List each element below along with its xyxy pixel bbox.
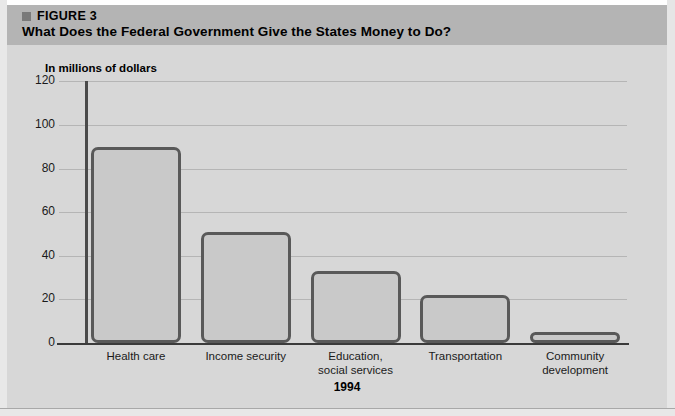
x-axis-label: 1994 bbox=[307, 380, 387, 394]
category-label-line: Community bbox=[515, 350, 635, 364]
gridline bbox=[59, 125, 627, 126]
y-axis-tick-label: 20 bbox=[21, 291, 55, 305]
y-axis-tick-label: 100 bbox=[21, 117, 55, 131]
y-axis-tick-label: 80 bbox=[21, 161, 55, 175]
figure-number: FIGURE 3 bbox=[37, 9, 97, 23]
y-axis-unit-label: In millions of dollars bbox=[45, 62, 157, 74]
category-label: Income security bbox=[186, 350, 306, 364]
bar bbox=[420, 295, 510, 343]
frame-right-edge bbox=[667, 0, 675, 416]
category-label: Transportation bbox=[405, 350, 525, 364]
category-label: Communitydevelopment bbox=[515, 350, 635, 377]
category-label: Education,social services bbox=[296, 350, 416, 377]
frame-bottom-edge bbox=[0, 408, 675, 416]
y-axis-tick-label: 40 bbox=[21, 248, 55, 262]
category-label-line: Health care bbox=[76, 350, 196, 364]
figure-container: FIGURE 3 What Does the Federal Governmen… bbox=[0, 0, 675, 416]
figure-title: What Does the Federal Government Give th… bbox=[22, 24, 451, 39]
bar bbox=[530, 332, 620, 343]
x-axis-line bbox=[57, 343, 629, 345]
y-axis-tick-label: 60 bbox=[21, 204, 55, 218]
bar bbox=[311, 271, 401, 343]
category-label-line: development bbox=[515, 364, 635, 378]
category-label: Health care bbox=[76, 350, 196, 364]
category-label-line: Transportation bbox=[405, 350, 525, 364]
y-axis-line bbox=[85, 81, 88, 343]
category-label-line: social services bbox=[296, 364, 416, 378]
bar bbox=[91, 147, 181, 343]
square-bullet-icon bbox=[22, 12, 31, 21]
figure-label-row: FIGURE 3 bbox=[22, 9, 97, 23]
bar bbox=[201, 232, 291, 343]
chart-plot-area: In millions of dollars 020406080100120 H… bbox=[7, 45, 667, 408]
y-axis-tick-label: 120 bbox=[21, 73, 55, 87]
frame-left-edge bbox=[0, 0, 7, 416]
category-label-line: Income security bbox=[186, 350, 306, 364]
gridline bbox=[59, 81, 627, 82]
category-label-line: Education, bbox=[296, 350, 416, 364]
y-axis-tick-label: 0 bbox=[21, 335, 55, 349]
